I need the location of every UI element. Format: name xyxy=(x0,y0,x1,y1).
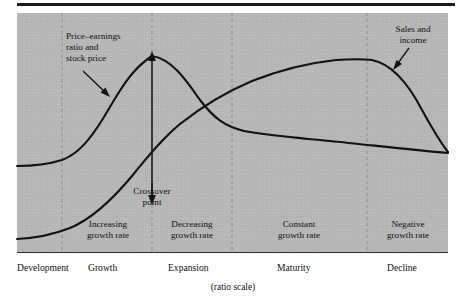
figure-product-life-cycle: Price–earnings ratio and stock price Sal… xyxy=(0,0,466,308)
band-constant-line1: Constant xyxy=(265,219,333,230)
label-sales-and-income: Sales and income xyxy=(381,24,445,46)
label-price-earnings-line3: stock price xyxy=(66,53,121,64)
band-decreasing-line2: growth rate xyxy=(158,230,226,241)
label-crossover-point: Crossover point xyxy=(123,186,181,208)
band-label-increasing-growth-rate: Increasing growth rate xyxy=(74,219,142,242)
label-sales-and-income-line1: Sales and xyxy=(381,24,445,35)
figure-caption-ratio-scale: (ratio scale) xyxy=(0,282,466,292)
label-price-earnings-line2: ratio and xyxy=(66,42,121,53)
band-negative-line1: Negative xyxy=(374,219,442,230)
label-crossover-point-line1: Crossover xyxy=(123,186,181,197)
band-increasing-line2: growth rate xyxy=(74,230,142,241)
stage-label-maturity: Maturity xyxy=(277,262,311,273)
pe-leader-shaft xyxy=(83,71,106,93)
band-negative-line2: growth rate xyxy=(374,230,442,241)
label-price-earnings-ratio: Price–earnings ratio and stock price xyxy=(66,31,121,65)
label-crossover-point-line2: point xyxy=(123,197,181,208)
band-label-negative-growth-rate: Negative growth rate xyxy=(374,219,442,242)
band-increasing-line1: Increasing xyxy=(74,219,142,230)
stage-label-growth: Growth xyxy=(88,262,117,273)
band-decreasing-line1: Decreasing xyxy=(158,219,226,230)
pe-leader-arrow xyxy=(83,71,110,97)
label-sales-and-income-line2: income xyxy=(381,35,445,46)
sales-leader-head xyxy=(393,60,402,70)
stage-label-expansion: Expansion xyxy=(168,262,209,273)
sales-leader-arrow xyxy=(393,48,409,70)
crossover-arrow xyxy=(148,51,156,205)
stage-label-development: Development xyxy=(17,262,69,273)
band-constant-line2: growth rate xyxy=(265,230,333,241)
band-label-decreasing-growth-rate: Decreasing growth rate xyxy=(158,219,226,242)
stage-label-decline: Decline xyxy=(387,262,417,273)
band-label-constant-growth-rate: Constant growth rate xyxy=(265,219,333,242)
label-price-earnings-line1: Price–earnings xyxy=(66,31,121,42)
